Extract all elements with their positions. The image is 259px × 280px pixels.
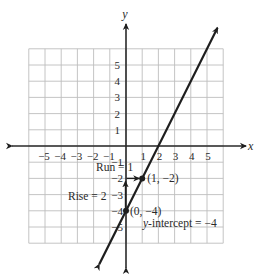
y-tick-label: 5	[115, 59, 121, 71]
point-label-1: (1, −2)	[147, 172, 179, 185]
x-tick-label: −3	[71, 150, 83, 162]
point-marker	[139, 175, 145, 181]
rise-label: Rise = 2	[68, 190, 107, 202]
point-label-0: (0, −4)	[130, 205, 162, 218]
coordinate-plane: −5−4−3−2−11234554321−1−2−3−4−5 y x Run =…	[0, 0, 259, 280]
y-tick-label: −4	[111, 205, 123, 217]
x-tick-label: 1	[140, 150, 146, 162]
axes	[12, 24, 246, 268]
y-tick-label: 3	[115, 91, 121, 103]
slope-diagram: −5−4−3−2−11234554321−1−2−3−4−5 y x Run =…	[0, 0, 259, 280]
x-tick-label: 4	[189, 150, 195, 162]
y-tick-label: −2	[111, 172, 123, 184]
y-tick-label: −3	[111, 189, 123, 201]
y-tick-label: 4	[115, 75, 121, 87]
y-intercept-text: -intercept = −4	[148, 217, 217, 230]
y-axis-label: y	[121, 7, 128, 21]
annotations: y x Run = 1 Rise = 2 (1, −2) (0, −4) y-i…	[68, 7, 254, 230]
x-tick-label: 2	[157, 150, 163, 162]
y-tick-label: 1	[115, 124, 121, 136]
x-axis-label: x	[247, 139, 254, 153]
point-marker	[123, 208, 129, 214]
run-label: Run = 1	[96, 161, 133, 173]
y-intercept-label: y-intercept = −4	[142, 217, 217, 230]
x-tick-label: −5	[38, 150, 50, 162]
y-tick-label: 2	[115, 108, 121, 120]
x-tick-label: 5	[205, 150, 211, 162]
x-tick-label: 3	[173, 150, 179, 162]
x-tick-label: −4	[54, 150, 66, 162]
